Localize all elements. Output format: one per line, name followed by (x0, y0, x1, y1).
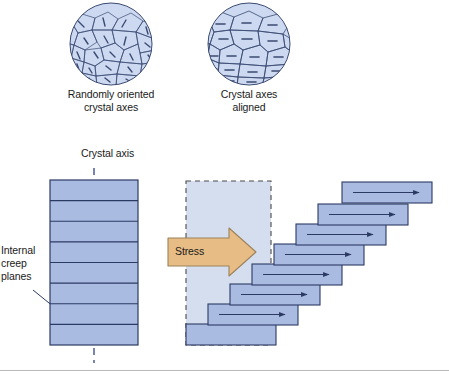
label-crystal-axis: Crystal axis (45, 147, 170, 160)
micrograph-aligned (194, 3, 293, 87)
creep-slab (208, 304, 298, 325)
creep-slab (318, 204, 408, 225)
creep-slab (230, 284, 320, 305)
creep-slab (186, 324, 276, 345)
creep-slab (342, 182, 432, 203)
creep-slab (296, 224, 386, 245)
creep-diagram-figure: Randomly oriented crystal axes Crystal a… (0, 0, 449, 379)
micrograph-randomly-oriented (58, 3, 156, 86)
creep-slab (274, 244, 364, 265)
caption-aligned: Crystal axes aligned (190, 88, 308, 114)
label-stress: Stress (175, 245, 229, 258)
creep-planes-leader-line (33, 290, 50, 304)
diagram-canvas (0, 0, 449, 379)
creep-slab (252, 264, 342, 285)
caption-randomly-oriented: Randomly oriented crystal axes (42, 88, 180, 114)
label-internal-creep-planes: Internal creep planes (1, 244, 63, 283)
undeformed-crystal-stack (50, 180, 138, 345)
